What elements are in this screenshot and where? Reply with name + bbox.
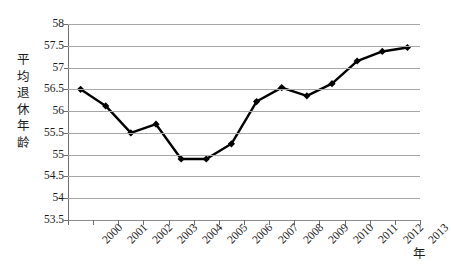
- y-axis-tick-label: 54: [4, 192, 64, 204]
- data-point-marker: [379, 48, 386, 55]
- x-axis-tick-label: 2005: [225, 221, 250, 246]
- plot-area: [68, 24, 420, 220]
- y-axis-tick-mark: [64, 24, 68, 25]
- gridline: [68, 176, 420, 177]
- y-axis-tick-mark: [64, 46, 68, 47]
- x-axis-tick-label-group: 2000200120022003200420052006200720082009…: [68, 221, 420, 261]
- gridline: [68, 155, 420, 156]
- gridline: [68, 198, 420, 199]
- gridline: [68, 89, 420, 90]
- x-axis-tick-label: 2012: [401, 221, 426, 246]
- x-axis-tick-label: 2006: [250, 221, 275, 246]
- y-axis-tick-label: 53.5: [4, 214, 64, 226]
- x-axis-tick-label: 2008: [300, 221, 325, 246]
- x-axis-tick-label: 2010: [351, 221, 376, 246]
- y-axis-tick-label: 57: [4, 62, 64, 74]
- x-axis-tick-label: 2007: [275, 221, 300, 246]
- x-axis-tick-label: 2000: [99, 221, 124, 246]
- y-axis-tick-mark: [64, 198, 68, 199]
- y-axis-tick-mark: [64, 155, 68, 156]
- x-axis-tick-label: 2004: [200, 221, 225, 246]
- x-axis-tick-label: 2001: [124, 221, 149, 246]
- gridline: [68, 24, 420, 25]
- y-axis-tick-label: 57.5: [4, 40, 64, 52]
- y-axis-tick-label: 55: [4, 149, 64, 161]
- gridline: [68, 46, 420, 47]
- x-axis-tick-label: 2013: [426, 221, 451, 246]
- gridline: [68, 133, 420, 134]
- x-axis-tick-label: 2009: [326, 221, 351, 246]
- x-axis-tick-label: 2003: [175, 221, 200, 246]
- gridline: [68, 111, 420, 112]
- x-axis-tick-label: 2002: [150, 221, 175, 246]
- y-axis-tick-mark: [64, 89, 68, 90]
- y-axis-tick-label-group: 5857.55756.55655.55554.55453.5: [0, 24, 64, 221]
- x-axis-title: 年: [413, 247, 426, 260]
- y-axis-tick-label: 56.5: [4, 83, 64, 95]
- y-axis-tick-label: 56: [4, 105, 64, 117]
- y-axis-tick-mark: [64, 176, 68, 177]
- y-axis-tick-mark: [64, 111, 68, 112]
- gridline: [68, 68, 420, 69]
- y-axis-tick-label: 55.5: [4, 127, 64, 139]
- series-line: [81, 48, 408, 160]
- x-axis-tick-label: 2011: [376, 221, 400, 245]
- y-axis-tick-label: 58: [4, 18, 64, 30]
- y-axis-tick-mark: [64, 68, 68, 69]
- y-axis-tick-label: 54.5: [4, 170, 64, 182]
- y-axis-tick-mark: [64, 133, 68, 134]
- retirement-age-line-series: [68, 24, 420, 220]
